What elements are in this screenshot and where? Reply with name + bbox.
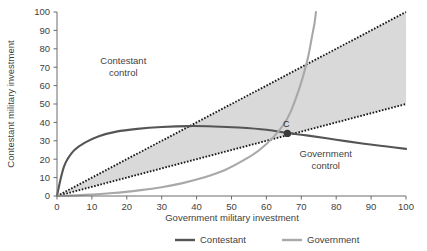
y-tick-label: 100 [34,6,50,17]
x-tick-label: 100 [398,201,414,212]
y-tick-label: 0 [45,190,50,201]
x-tick-label: 70 [296,201,307,212]
annotation-line-2: control [311,160,340,171]
chart-svg: 0102030405060708090100 01020304050607080… [0,0,427,251]
y-tick-label: 90 [39,25,50,36]
x-tick-label: 60 [261,201,272,212]
point-label-c: C [283,119,290,129]
y-tick-label: 60 [39,80,50,91]
y-tick-label: 80 [39,43,50,54]
annotation-line-1: Contestant [100,55,146,66]
point-marker-c [284,130,291,137]
x-tick-label: 10 [87,201,98,212]
annotation-line-1: Government [300,148,353,159]
x-tick-label: 80 [331,201,342,212]
legend-label-contestant: Contestant [200,234,246,245]
y-axis-title: Contestant military investment [5,40,16,168]
x-tick-label: 20 [122,201,133,212]
y-tick-label: 40 [39,117,50,128]
x-axis-title: Government military investment [165,212,299,223]
y-tick-label: 20 [39,154,50,165]
y-tick-label: 70 [39,62,50,73]
x-tick-label: 30 [156,201,167,212]
x-tick-label: 50 [226,201,237,212]
x-tick-label: 0 [54,201,59,212]
y-tick-label: 10 [39,172,50,183]
x-tick-label: 40 [191,201,202,212]
y-tick-label: 50 [39,98,50,109]
annotation-line-2: control [109,67,138,78]
x-tick-label: 90 [366,201,377,212]
legend-label-government: Government [307,234,360,245]
chart-figure: 0102030405060708090100 01020304050607080… [0,0,427,251]
y-tick-label: 30 [39,135,50,146]
